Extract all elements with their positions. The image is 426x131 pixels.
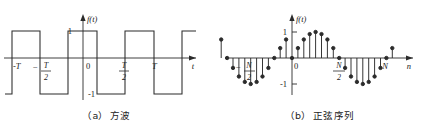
x-tick-minus-N-over-2-denominator: 2 <box>247 73 251 82</box>
x-tick-N: N <box>381 61 389 71</box>
y-axis <box>80 14 85 100</box>
figure-root: 1 -1 0 -T − T 2 T 2 T t f(t) <box>0 0 426 131</box>
origin-label: 0 <box>86 61 90 71</box>
y-tick-pos-one: 1 <box>68 26 72 36</box>
sine-sequence-plot: 1 -1 0 − N 2 N 2 N n f(t) <box>213 0 426 108</box>
x-tick-minus-T-over-2-denominator: 2 <box>44 73 48 82</box>
x-tick-T-over-2-numerator: T <box>122 61 127 70</box>
caption-text: 方波 <box>110 110 130 121</box>
y-axis <box>289 14 294 95</box>
x-tick-N-over-2: N 2 <box>333 61 345 82</box>
x-tick-T: T <box>152 61 158 71</box>
panel-caption-square-wave: （a）方波 <box>0 108 213 122</box>
y-tick-neg-one: -1 <box>88 89 95 99</box>
origin-label: 0 <box>294 61 298 71</box>
x-tick-N-over-2-numerator: N <box>335 61 342 70</box>
y-tick-neg-one: -1 <box>280 79 287 89</box>
y-axis-label: f(t) <box>296 14 307 24</box>
x-axis <box>4 55 196 60</box>
y-tick-pos-one: 1 <box>283 27 287 37</box>
caption-index: （b） <box>285 110 311 121</box>
panel-square-wave: 1 -1 0 -T − T 2 T 2 T t f(t) <box>0 0 213 131</box>
x-tick-N-over-2-denominator: 2 <box>337 73 341 82</box>
svg-text:−: − <box>235 62 241 72</box>
panel-sine-sequence: 1 -1 0 − N 2 N 2 N n f(t) （ <box>213 0 426 131</box>
x-tick-minus-T: -T <box>13 61 22 71</box>
caption-text: 正弦序列 <box>313 110 354 121</box>
x-tick-minus-N-over-2-numerator: N <box>245 61 252 70</box>
x-axis-label: n <box>407 61 411 71</box>
svg-text:−: − <box>32 62 38 72</box>
x-axis-label: t <box>192 61 195 71</box>
x-tick-minus-T-over-2: − T 2 <box>32 61 51 82</box>
square-wave-plot: 1 -1 0 -T − T 2 T 2 T t f(t) <box>0 0 213 108</box>
x-tick-T-over-2: T 2 <box>119 61 129 82</box>
caption-index: （a） <box>82 110 108 121</box>
x-tick-T-over-2-denominator: 2 <box>122 73 126 82</box>
panel-caption-sine-sequence: （b）正弦序列 <box>213 108 426 122</box>
x-tick-minus-T-over-2-numerator: T <box>44 61 49 70</box>
y-axis-label: f(t) <box>87 14 98 24</box>
